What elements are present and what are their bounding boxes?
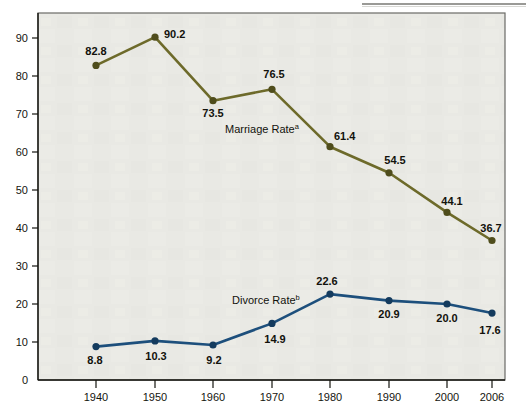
x-axis-ticks: [96, 380, 492, 388]
x-tick-label-1970: 1970: [260, 391, 284, 403]
divorce-value-label-1970: 14.9: [264, 333, 285, 345]
marriage-value-label-2000: 44.1: [441, 195, 462, 207]
x-tick-label-2000: 2000: [435, 391, 459, 403]
marriage-value-label-1950: 90.2: [164, 28, 185, 40]
y-tick-label-80: 80: [16, 70, 28, 82]
divorce-value-label-1980: 22.6: [316, 275, 337, 287]
y-tick-label-70: 70: [16, 108, 28, 120]
marriage-rate-annotation: Marriage Ratea: [225, 122, 300, 135]
x-tick-label-1940: 1940: [84, 391, 108, 403]
y-tick-label-60: 60: [16, 146, 28, 158]
x-tick-label-2006: 2006: [480, 391, 504, 403]
y-tick-label-0: 0: [22, 374, 28, 386]
x-tick-label-1990: 1990: [377, 391, 401, 403]
divorce-rate-annotation-superscript: b: [296, 293, 300, 302]
divorce-value-label-1960: 9.2: [206, 354, 221, 366]
line-chart: 90 80 70 60 50 40 30 20 10 0 1940 1950 1…: [0, 0, 526, 417]
x-tick-label-1980: 1980: [318, 391, 342, 403]
y-axis-ticks: [32, 38, 38, 342]
marriage-rate-annotation-text: Marriage Rate: [225, 123, 295, 135]
y-tick-label-20: 20: [16, 298, 28, 310]
y-tick-label-40: 40: [16, 222, 28, 234]
divorce-value-label-2000: 20.0: [436, 312, 457, 324]
divorce-value-label-2006: 17.6: [479, 324, 500, 336]
y-tick-label-50: 50: [16, 184, 28, 196]
marriage-value-label-1980: 61.4: [334, 130, 356, 142]
marriage-value-label-1990: 54.5: [384, 154, 405, 166]
divorce-rate-annotation-text: Divorce Rate: [232, 294, 296, 306]
marriage-value-label-1960: 73.5: [202, 107, 223, 119]
x-tick-label-1960: 1960: [201, 391, 225, 403]
divorce-rate-annotation: Divorce Rateb: [232, 293, 300, 306]
marriage-value-label-1940: 82.8: [85, 45, 106, 57]
y-tick-label-30: 30: [16, 260, 28, 272]
y-tick-label-10: 10: [16, 336, 28, 348]
x-tick-label-1950: 1950: [143, 391, 167, 403]
divorce-value-label-1940: 8.8: [87, 354, 102, 366]
divorce-value-label-1950: 10.3: [145, 350, 166, 362]
divorce-value-label-1990: 20.9: [378, 308, 399, 320]
marriage-value-label-2006: 36.7: [480, 222, 501, 234]
y-tick-label-90: 90: [16, 32, 28, 44]
marriage-value-label-1970: 76.5: [263, 68, 284, 80]
chart-page: 90 80 70 60 50 40 30 20 10 0 1940 1950 1…: [0, 0, 526, 417]
